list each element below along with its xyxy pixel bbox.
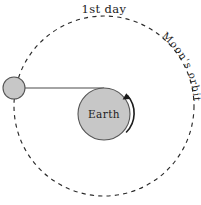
diagram-canvas: 1st day Earth Moon's orbit bbox=[0, 0, 201, 205]
label-moons-orbit-path: Moon's orbit bbox=[160, 30, 201, 102]
label-moons-orbit: Moon's orbit bbox=[160, 30, 201, 102]
moon-orbit-diagram: 1st day Earth Moon's orbit bbox=[0, 0, 201, 205]
label-earth: Earth bbox=[88, 108, 120, 120]
label-first-day: 1st day bbox=[81, 2, 126, 16]
moon-circle bbox=[3, 77, 25, 99]
